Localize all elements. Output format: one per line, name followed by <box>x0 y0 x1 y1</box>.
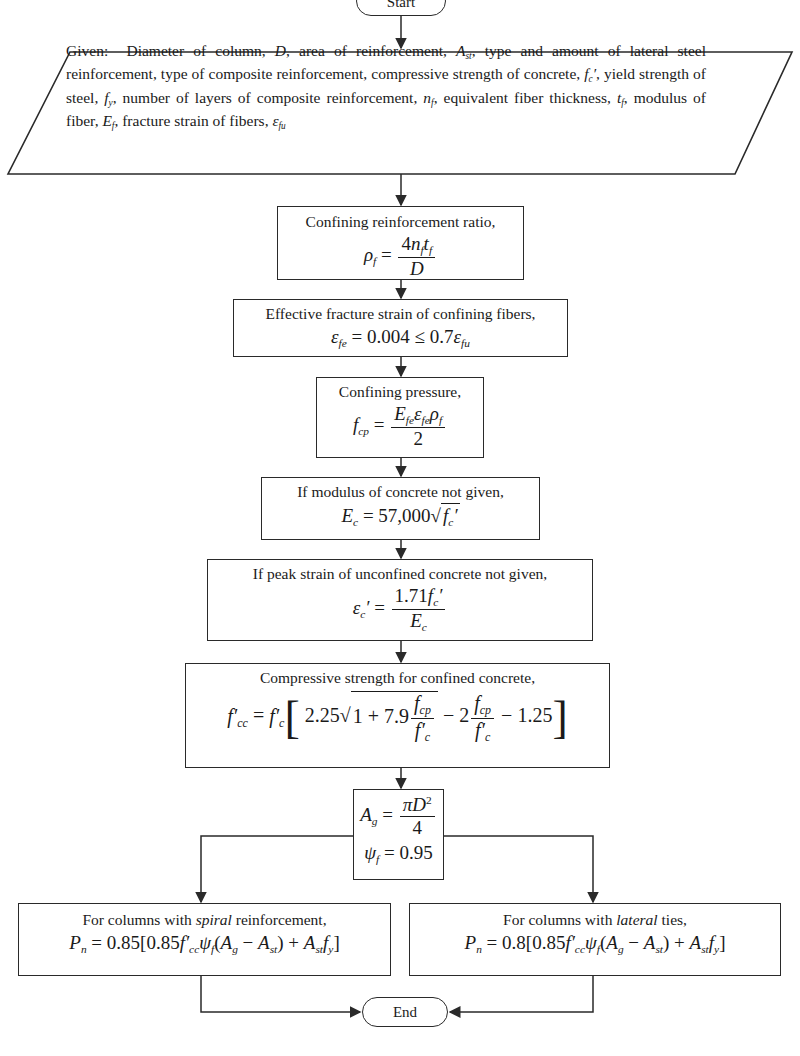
step-label: If modulus of concrete not given, <box>262 482 539 501</box>
step-confining-ratio: Confining reinforcement ratio, ρf = 4nft… <box>277 206 524 280</box>
equation-f-cp: fcp = Efeεfeρf2 <box>317 403 483 450</box>
equation-psi-f: ψf = 0.95 <box>354 841 443 866</box>
equation-Pn-ties: Pn = 0.8[0.85f′ccψf(Ag − Ast) + Astfy] <box>410 931 780 956</box>
step-label: Confining pressure, <box>317 382 483 401</box>
step-label: Compressive strength for confined concre… <box>186 668 609 687</box>
step-effective-fracture-strain: Effective fracture strain of confining f… <box>233 299 568 357</box>
branch-lateral-ties: For columns with lateral ties, Pn = 0.8[… <box>409 903 781 976</box>
step-confining-pressure: Confining pressure, fcp = Efeεfeρf2 <box>316 377 484 458</box>
step-label: Confining reinforcement ratio, <box>278 212 523 231</box>
end-terminal: End <box>362 997 448 1027</box>
equation-Pn-spiral: Pn = 0.85[0.85f′ccψf(Ag − Ast) + Astfy] <box>19 931 390 956</box>
branch-label: For columns with lateral ties, <box>410 910 780 929</box>
end-label: End <box>393 1004 417 1020</box>
equation-rho-f: ρf = 4nftfD <box>278 233 523 280</box>
branch-label: For columns with spiral reinforcement, <box>19 910 390 929</box>
equation-A-g: Ag = πD24 <box>354 794 443 839</box>
equation-eps-fe: εfe = 0.004 ≤ 0.7εfu <box>234 325 567 350</box>
step-confined-compressive-strength: Compressive strength for confined concre… <box>185 663 610 768</box>
step-peak-strain: If peak strain of unconfined concrete no… <box>207 559 593 641</box>
given-text: Given: Diameter of column, D, area of re… <box>66 40 706 134</box>
equation-eps-c: εc′ = 1.71fc′Ec <box>208 585 592 634</box>
step-gross-area: Ag = πD24 ψf = 0.95 <box>353 789 444 880</box>
equation-E-c: Ec = 57,000√fc′ <box>262 503 539 529</box>
branch-spiral-reinforcement: For columns with spiral reinforcement, P… <box>18 903 391 976</box>
step-label: If peak strain of unconfined concrete no… <box>208 564 592 583</box>
step-modulus-of-concrete: If modulus of concrete not given, Ec = 5… <box>261 477 540 540</box>
equation-f-cc: f′cc = f′c[ 2.25√1 + 7.9fcpf′c − 2fcpf′c… <box>186 689 609 747</box>
step-label: Effective fracture strain of confining f… <box>234 304 567 323</box>
